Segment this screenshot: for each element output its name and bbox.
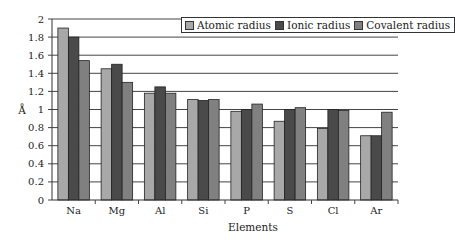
y-tick-label: 1.8 [28,32,44,43]
x-tick-label: Ar [369,205,382,216]
bar-mg-atomic [101,69,112,200]
x-axis-ticks: NaMgAlSiPSClAr [66,200,398,216]
bar-s-atomic [274,121,285,200]
y-tick-label: 1.6 [28,50,44,61]
legend-swatch-atomic [185,21,194,30]
bar-s-ionic [285,110,296,201]
bar-si-covalent [209,100,220,200]
x-tick-label: Si [198,205,208,216]
x-tick-label: Al [154,205,165,216]
x-tick-label: S [286,205,293,216]
legend-item-covalent: Covalent radius [354,19,450,31]
bar-al-atomic [144,93,155,200]
y-tick-label: 0.8 [28,122,44,133]
x-axis-label: Elements [228,221,278,233]
bar-ar-ionic [371,136,382,200]
bar-mg-covalent [122,82,133,200]
x-tick-label: Cl [328,205,339,216]
bar-p-atomic [231,111,242,200]
bar-si-ionic [198,100,209,200]
x-tick-label: Na [66,205,81,216]
bar-s-covalent [295,108,306,200]
bar-cl-covalent [338,110,349,200]
legend-label-ionic: Ionic radius [287,19,350,31]
legend-label-atomic: Atomic radius [197,19,271,31]
x-tick-label: P [243,205,250,216]
y-tick-label: 0.6 [28,140,44,151]
bar-al-covalent [165,93,176,200]
y-axis-ticks: 00.20.40.60.811.21.41.61.82 [28,14,52,206]
legend-item-ionic: Ionic radius [275,19,350,31]
bar-na-atomic [58,28,69,200]
bar-p-ionic [241,110,252,201]
y-tick-label: 1.2 [28,86,44,97]
bar-na-covalent [79,61,90,200]
y-axis-label: Å [17,103,26,116]
y-tick-label: 0.2 [28,176,44,187]
bar-ar-covalent [382,112,393,200]
legend-label-covalent: Covalent radius [366,19,450,31]
legend-item-atomic: Atomic radius [185,19,271,31]
x-tick-label: Mg [109,205,126,216]
bar-al-ionic [155,87,166,200]
legend-swatch-covalent [354,21,363,30]
legend-swatch-ionic [275,21,284,30]
y-tick-label: 2 [38,14,44,25]
bar-ar-atomic [361,136,372,200]
y-tick-label: 0 [38,195,44,206]
bar-mg-ionic [112,64,123,200]
bar-na-ionic [68,37,79,200]
bar-si-atomic [188,100,199,200]
bar-series [58,28,392,200]
y-tick-label: 0.4 [28,158,44,169]
bar-cl-atomic [317,129,328,200]
chart-legend: Atomic radius Ionic radius Covalent radi… [181,17,455,33]
bar-cl-ionic [328,110,339,201]
y-tick-label: 1.4 [28,68,44,79]
bar-p-covalent [252,104,263,200]
y-tick-label: 1 [38,104,44,115]
